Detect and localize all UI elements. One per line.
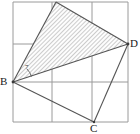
vertex-label-B: B	[0, 76, 7, 87]
angle-mark-label: 7	[25, 64, 29, 71]
vertex-label-D: D	[130, 38, 138, 49]
segment-B-C	[13, 82, 94, 122]
geometry-figure: B C D 7	[0, 0, 140, 134]
vertex-dot-B	[12, 81, 15, 84]
segment-C-D	[94, 44, 128, 122]
hatched-triangle-BAD	[13, 2, 128, 82]
vertex-dot-D	[127, 43, 130, 46]
vertex-label-C: C	[90, 123, 97, 134]
figure-canvas	[0, 0, 140, 134]
